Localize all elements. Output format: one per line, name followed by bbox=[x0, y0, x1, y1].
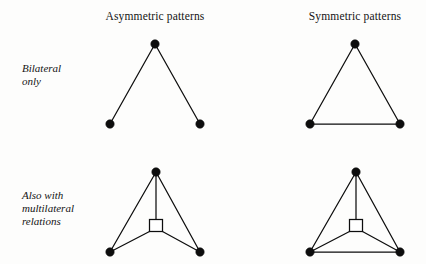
node-base-left bbox=[106, 120, 114, 128]
edge-apex-to-base-right bbox=[355, 44, 400, 124]
node-apex bbox=[352, 168, 360, 176]
pattern-diagrams-canvas bbox=[0, 0, 426, 264]
node-base-left bbox=[106, 248, 114, 256]
diagram-symmetric-bilateral bbox=[306, 40, 404, 128]
square-node-multilateral-relation-square bbox=[150, 220, 163, 232]
node-base-left bbox=[306, 248, 314, 256]
node-base-right bbox=[196, 248, 204, 256]
node-apex bbox=[151, 40, 159, 48]
node-base-right bbox=[396, 120, 404, 128]
diagram-page: Asymmetric patterns Symmetric patterns B… bbox=[0, 0, 426, 264]
edge-apex-to-base-left bbox=[310, 44, 355, 124]
diagram-asymmetric-bilateral bbox=[106, 40, 204, 128]
square-node-multilateral-relation-square bbox=[350, 220, 363, 232]
node-base-right bbox=[196, 120, 204, 128]
node-base-left bbox=[306, 120, 314, 128]
node-apex bbox=[152, 168, 160, 176]
diagram-asymmetric-multilateral bbox=[106, 168, 204, 256]
node-apex bbox=[351, 40, 359, 48]
node-base-right bbox=[396, 248, 404, 256]
edge-apex-to-base-right bbox=[155, 44, 200, 124]
diagram-symmetric-multilateral bbox=[306, 168, 404, 256]
edge-apex-to-base-left bbox=[110, 44, 155, 124]
